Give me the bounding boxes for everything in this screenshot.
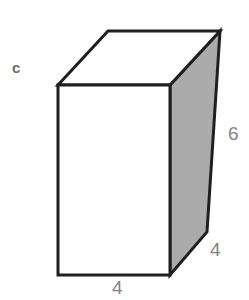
dimension-label-depth: 4 [210, 240, 221, 259]
prism-figure: c 6 4 4 [0, 0, 249, 300]
dimension-label-width: 4 [112, 278, 123, 297]
dimension-label-height: 6 [228, 124, 239, 143]
part-label-c: c [12, 60, 20, 75]
prism-front-face [58, 85, 170, 275]
